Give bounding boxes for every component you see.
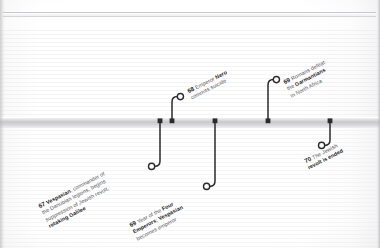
scan-vignette [0,0,380,248]
page-edge-left [0,0,4,248]
timeline-infographic: 67 Vespasian, commander of the Danubian … [0,0,380,248]
